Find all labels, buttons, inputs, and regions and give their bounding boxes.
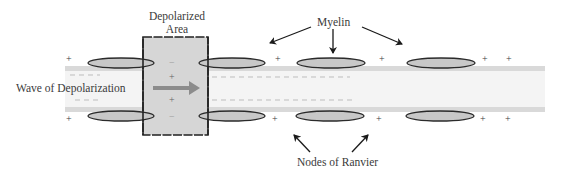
- axon: [65, 66, 545, 112]
- myelin-arrow-right: [362, 27, 402, 44]
- myelin-sheath: [88, 111, 154, 121]
- myelin-sheath: [407, 58, 475, 68]
- myelin-sheath: [406, 111, 474, 121]
- depolarized-area-label: Depolarized Area: [137, 10, 217, 36]
- plus-sign: +: [506, 52, 512, 65]
- depolarized-area-label-line2: Area: [166, 23, 188, 35]
- plus-sign: +: [169, 70, 175, 83]
- myelin-sheath: [88, 58, 154, 68]
- myelin-sheath: [297, 58, 365, 68]
- myelin-sheath: [199, 58, 265, 68]
- plus-sign: +: [169, 93, 175, 106]
- plus-sign: +: [272, 112, 278, 125]
- wave-of-depolarization-label: Wave of Depolarization: [16, 82, 126, 95]
- plus-sign: +: [505, 112, 511, 125]
- plus-sign: +: [66, 112, 72, 125]
- minus-sign: −: [169, 56, 175, 69]
- myelin-sheath: [296, 111, 364, 121]
- myelin-sheath: [199, 111, 265, 121]
- minus-sign: −: [169, 110, 175, 123]
- plus-sign: +: [376, 112, 382, 125]
- nodes-of-ranvier-label: Nodes of Ranvier: [297, 156, 378, 169]
- plus-sign: +: [379, 52, 385, 65]
- plus-sign: +: [275, 52, 281, 65]
- nodes-arrow-right: [352, 135, 368, 152]
- depolarized-area-label-line1: Depolarized: [149, 10, 205, 22]
- myelin-arrow-left: [270, 27, 311, 43]
- nodes-arrow-left: [294, 135, 310, 152]
- plus-sign: +: [66, 52, 72, 65]
- plus-sign: +: [482, 52, 488, 65]
- plus-sign: +: [480, 112, 486, 125]
- myelin-label: Myelin: [317, 16, 350, 29]
- myelinated-axon-diagram: + + + + + + + + + + − + + − Depolarized …: [0, 0, 563, 180]
